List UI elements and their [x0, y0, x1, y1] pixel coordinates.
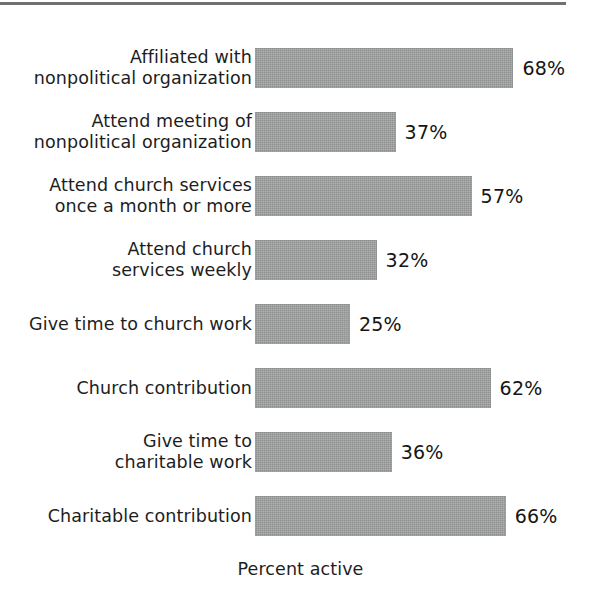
bar-row: Charitable contribution66% [0, 496, 591, 536]
bar-group: 36% [255, 432, 444, 472]
bar-rect [255, 176, 472, 216]
bar-value-label: 36% [401, 441, 444, 463]
bar-rect [255, 496, 506, 536]
bar-rect [255, 368, 491, 408]
bar-row: Give time to charitable work36% [0, 432, 591, 472]
bar-group: 66% [255, 496, 558, 536]
bar-group: 68% [255, 48, 565, 88]
bar-value-label: 32% [386, 249, 429, 271]
bar-group: 25% [255, 304, 402, 344]
bar-row: Church contribution62% [0, 368, 591, 408]
category-label: Give time to church work [0, 314, 252, 335]
category-label: Give time to charitable work [0, 431, 252, 473]
bar-rect [255, 48, 513, 88]
category-label: Affiliated with nonpolitical organizatio… [0, 47, 252, 89]
bar-row: Affiliated with nonpolitical organizatio… [0, 48, 591, 88]
bar-row: Attend meeting of nonpolitical organizat… [0, 112, 591, 152]
category-label: Attend church services weekly [0, 239, 252, 281]
bar-value-label: 57% [481, 185, 524, 207]
bar-rect [255, 304, 350, 344]
bar-value-label: 66% [515, 505, 558, 527]
bar-row: Give time to church work25% [0, 304, 591, 344]
bar-value-label: 25% [359, 313, 402, 335]
bar-value-label: 62% [500, 377, 543, 399]
x-axis-title: Percent active [0, 559, 591, 579]
bar-group: 62% [255, 368, 542, 408]
bar-rect [255, 240, 377, 280]
bar-chart: Affiliated with nonpolitical organizatio… [0, 0, 591, 607]
category-label: Charitable contribution [0, 506, 252, 527]
bar-row: Attend church services once a month or m… [0, 176, 591, 216]
bar-value-label: 37% [405, 121, 448, 143]
bar-rect [255, 432, 392, 472]
bar-group: 37% [255, 112, 447, 152]
bar-rect [255, 112, 396, 152]
category-label: Attend church services once a month or m… [0, 175, 252, 217]
bar-group: 32% [255, 240, 428, 280]
category-label: Church contribution [0, 378, 252, 399]
plot-area: Affiliated with nonpolitical organizatio… [0, 0, 591, 607]
bar-value-label: 68% [522, 57, 565, 79]
bar-row: Attend church services weekly32% [0, 240, 591, 280]
bar-group: 57% [255, 176, 523, 216]
category-label: Attend meeting of nonpolitical organizat… [0, 111, 252, 153]
